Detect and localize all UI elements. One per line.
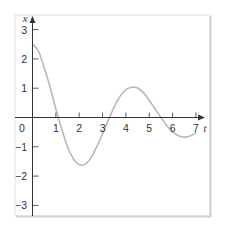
x-tick-label: 3 (100, 122, 106, 134)
plot-frame (15, 15, 210, 216)
y-tick-label: −3 (15, 199, 27, 211)
x-tick-label: 2 (76, 122, 82, 134)
x-tick-label: 6 (170, 122, 176, 134)
x-tick-label: 5 (146, 122, 152, 134)
y-tick-label: 2 (21, 53, 27, 65)
x-tick-label: 1 (53, 122, 59, 134)
x-tick-label: 7 (193, 122, 199, 134)
y-tick-label: 1 (21, 82, 27, 94)
x-tick-label: 0 (19, 122, 25, 134)
y-axis-label: x (22, 13, 28, 24)
y-tick-label: −2 (15, 170, 27, 182)
y-tick-label: −1 (15, 141, 27, 153)
damped-oscillation-chart: 01234567321−1−2−3tx (0, 0, 233, 229)
y-tick-label: 3 (21, 24, 27, 36)
x-tick-label: 4 (123, 122, 129, 134)
